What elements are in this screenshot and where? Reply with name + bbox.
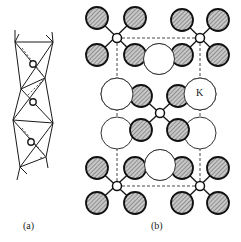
- panel-a-octahedra-chain: [13, 30, 53, 180]
- figure: K (a) (b): [0, 0, 241, 242]
- atom-a-2: [30, 99, 36, 105]
- atom-a-1: [30, 61, 36, 67]
- panel-a-label: (a): [23, 220, 34, 231]
- k-atom-label: K: [196, 87, 203, 98]
- crystal-structure-diagram: [0, 0, 241, 242]
- atom-a-3: [28, 139, 34, 145]
- panel-b-label: (b): [151, 220, 163, 231]
- panel-b-structure: [86, 7, 229, 214]
